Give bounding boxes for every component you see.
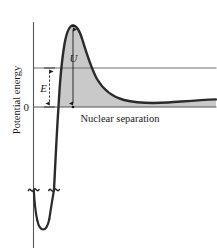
- barrier-height-label: U: [70, 52, 79, 64]
- barrier-peak-dot: [72, 25, 75, 28]
- potential-well-left-branch: [34, 190, 37, 220]
- x-axis-label: Nuclear separation: [80, 113, 160, 124]
- barrier-base-dot: [72, 106, 75, 109]
- potential-energy-figure: E U 0 Nuclear separation Potential energ…: [0, 0, 217, 252]
- potential-well-bottom: [37, 219, 49, 230]
- axis-break-mark-left: [29, 189, 40, 191]
- potential-well-right-branch: [49, 190, 54, 219]
- energy-level-label: E: [39, 82, 47, 94]
- axis-break-mark-right: [49, 189, 60, 191]
- y-axis-label: Potential energy: [11, 65, 22, 134]
- origin-tick-label: 0: [24, 101, 30, 113]
- figure-canvas: E U 0 Nuclear separation Potential energ…: [0, 0, 217, 252]
